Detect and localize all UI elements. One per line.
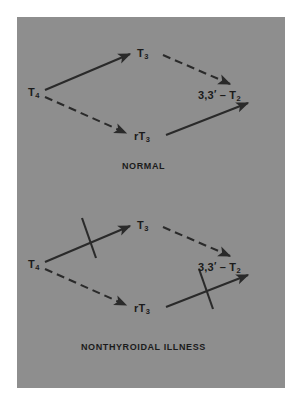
block-slash-t4-t3-icon — [82, 218, 96, 258]
edge-t4-to-rt3 — [45, 97, 126, 133]
caption-nonthyroidal-illness: NONTHYROIDAL ILLNESS — [81, 343, 206, 352]
edge-t3-to-t2 — [163, 55, 230, 84]
node-label-rt3: rT3 — [134, 303, 150, 314]
node-label-rt3: rT3 — [134, 131, 150, 142]
edge-t3-to-t2 — [163, 227, 230, 256]
node-label-t2: 3,3′ – T2 — [198, 90, 241, 101]
node-label-t3: T3 — [137, 220, 148, 231]
figure-root: T4 T3 rT3 3,3′ – T2 NORMAL T4 T3 rT3 3,3… — [0, 0, 303, 403]
node-label-t3: T3 — [137, 48, 148, 59]
edge-rt3-to-t2 — [166, 103, 248, 135]
node-label-t4: T4 — [28, 87, 39, 98]
edge-t4-to-t3 — [45, 54, 130, 90]
node-label-t4: T4 — [28, 259, 39, 270]
caption-normal: NORMAL — [122, 162, 165, 171]
edge-t4-to-rt3 — [45, 269, 126, 305]
node-label-t2: 3,3′ – T2 — [198, 262, 241, 273]
